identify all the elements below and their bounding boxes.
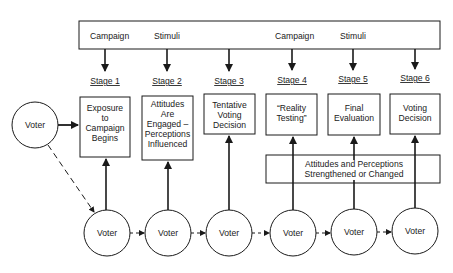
stage-text: Are — [161, 109, 175, 119]
stage-text: Voting — [403, 103, 427, 113]
voter-node-6: Voter — [392, 208, 438, 254]
stage-text: Evaluation — [334, 113, 374, 123]
stage-text: Testing” — [276, 113, 306, 123]
voter-node-3: Voter — [206, 210, 252, 256]
voter-node-2: Voter — [145, 210, 191, 256]
stage-label: Stage 4 — [277, 75, 307, 85]
stage-box-2: Attitudes Are Engaged – Perceptions Infl… — [142, 96, 193, 160]
attitudes-text: Attitudes and Perceptions — [305, 159, 403, 169]
banner-word: Campaign — [275, 31, 314, 41]
stage-label: Stage 3 — [214, 76, 244, 86]
stage-box-4: “Reality Testing” — [266, 94, 317, 135]
stage-box-3: Tentative Voting Decision — [204, 94, 255, 134]
banner-word: Stimuli — [340, 31, 366, 41]
stage-label: Stage 5 — [338, 74, 368, 84]
stage-text: Tentative — [212, 100, 247, 110]
stage-text: to — [101, 113, 108, 123]
stage-text: Decision — [399, 113, 432, 123]
voter-label: Voter — [405, 226, 425, 236]
stage-text: Influenced — [148, 139, 188, 149]
stage-box-1: Exposure to Campaign Begins — [80, 97, 130, 157]
stage-text: Engaged – — [147, 119, 189, 129]
voter-node-4: Voter — [270, 210, 316, 256]
stage-text: Decision — [213, 120, 246, 130]
attitudes-perceptions-box: Attitudes and Perceptions Strengthened o… — [266, 155, 440, 183]
stage-label: Stage 1 — [90, 76, 120, 86]
stage-text: Attitudes — [151, 99, 184, 109]
voter-node-5: Voter — [331, 209, 377, 255]
voter-label: Voter — [344, 227, 364, 237]
voter-label: Voter — [25, 120, 45, 130]
stage-text: Final — [345, 103, 364, 113]
stage-text: Exposure — [87, 103, 124, 113]
banner-word: Stimuli — [154, 31, 180, 41]
voter-label: Voter — [158, 228, 178, 238]
stage-text: Campaign — [85, 123, 124, 133]
voter-label: Voter — [219, 228, 239, 238]
stage-label: Stage 6 — [400, 73, 430, 83]
stage-text: Begins — [92, 133, 118, 143]
voter-label: Voter — [283, 228, 303, 238]
voter-label: Voter — [97, 228, 117, 238]
stage-box-5: Final Evaluation — [328, 94, 380, 135]
voting-process-diagram: Campaign Stimuli Campaign Stimuli Stage … — [0, 0, 453, 273]
voter-node-1: Voter — [84, 210, 130, 256]
stage-text: Perceptions — [145, 129, 190, 139]
stage-text: Voting — [218, 110, 242, 120]
stage-box-6: Voting Decision — [390, 94, 440, 134]
attitudes-text: Strengthened or Changed — [305, 169, 404, 179]
stimuli-arrows — [105, 49, 415, 71]
start-voter-node: Voter — [12, 102, 58, 148]
campaign-stimuli-banner: Campaign Stimuli Campaign Stimuli — [79, 21, 440, 49]
stage-label: Stage 2 — [152, 76, 182, 86]
stage-text: “Reality — [277, 103, 307, 113]
banner-word: Campaign — [90, 31, 129, 41]
stage-labels: Stage 1 Stage 2 Stage 3 Stage 4 Stage 5 … — [90, 73, 430, 86]
